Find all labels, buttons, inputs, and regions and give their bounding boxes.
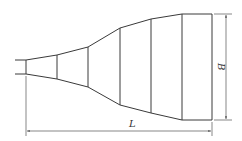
- width-dimension: B: [214, 14, 232, 120]
- length-dimension: L: [26, 76, 212, 136]
- length-label: L: [128, 118, 136, 129]
- inlet-stub: [15, 60, 26, 74]
- width-label: B: [216, 62, 227, 70]
- bottom-profile: [26, 74, 212, 120]
- top-profile: [26, 14, 212, 60]
- nozzle-diagram: L B: [0, 0, 242, 141]
